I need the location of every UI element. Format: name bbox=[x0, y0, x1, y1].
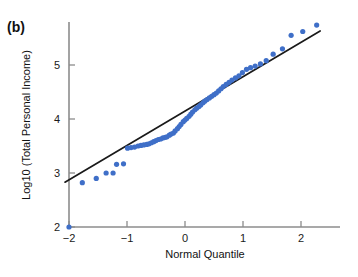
data-point bbox=[94, 176, 99, 181]
x-axis-ticks bbox=[69, 221, 301, 227]
data-point bbox=[121, 161, 126, 166]
y-axis-ticks bbox=[69, 65, 75, 227]
y-axis-tick-labels: 2345 bbox=[54, 59, 60, 233]
data-point bbox=[258, 61, 263, 66]
data-point bbox=[66, 224, 71, 229]
data-point bbox=[300, 29, 305, 34]
data-point bbox=[104, 170, 109, 175]
reference-fit-line bbox=[65, 31, 320, 182]
data-point bbox=[110, 170, 115, 175]
y-tick-label: 4 bbox=[54, 113, 60, 125]
x-tick-label: 0 bbox=[182, 232, 188, 244]
y-tick-label: 5 bbox=[54, 59, 60, 71]
data-point bbox=[271, 52, 276, 57]
y-axis-title: Log10 (Total Personal Income) bbox=[20, 50, 32, 200]
data-point bbox=[314, 22, 319, 27]
data-point bbox=[264, 58, 269, 63]
y-tick-label: 2 bbox=[54, 221, 60, 233]
x-axis-title: Normal Quantile bbox=[165, 248, 244, 260]
data-point bbox=[240, 70, 245, 75]
data-point bbox=[253, 63, 258, 68]
x-axis-tick-labels: −2−1012 bbox=[63, 232, 304, 244]
figure-panel: (b) −2−1012 2345 Normal Quantile Log10 (… bbox=[0, 0, 358, 277]
data-point bbox=[248, 65, 253, 70]
data-point bbox=[280, 46, 285, 51]
data-point bbox=[80, 180, 85, 185]
x-tick-label: 1 bbox=[240, 232, 246, 244]
axis-lines bbox=[69, 22, 340, 227]
x-tick-label: −2 bbox=[63, 232, 76, 244]
x-tick-label: −1 bbox=[121, 232, 134, 244]
y-tick-label: 3 bbox=[54, 167, 60, 179]
qq-plot-svg: −2−1012 2345 Normal Quantile Log10 (Tota… bbox=[0, 0, 358, 277]
data-point bbox=[289, 33, 294, 38]
data-point bbox=[114, 162, 119, 167]
x-tick-label: 2 bbox=[298, 232, 304, 244]
